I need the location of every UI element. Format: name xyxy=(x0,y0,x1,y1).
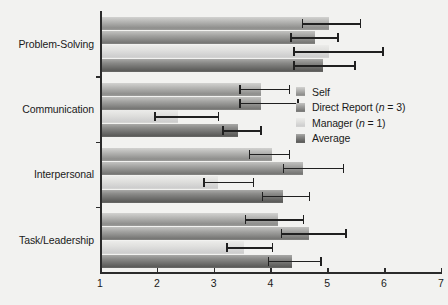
error-bar xyxy=(268,257,322,266)
error-bar-cap-low xyxy=(245,215,247,224)
y-axis-tick xyxy=(96,76,100,78)
x-axis-tick-label: 2 xyxy=(149,277,165,289)
error-bar-cap-low xyxy=(293,47,295,56)
legend-swatch-icon xyxy=(296,118,305,127)
error-bar-cap-low xyxy=(302,19,304,28)
error-bar-line xyxy=(302,23,362,25)
legend-item[interactable]: Manager (n = 1) xyxy=(296,115,405,131)
error-bar-line xyxy=(245,219,305,221)
legend-item-label: Manager (n = 1) xyxy=(312,117,386,129)
error-bar xyxy=(283,164,344,173)
bar-average xyxy=(102,190,284,203)
error-bar-cap-low xyxy=(239,85,241,94)
bar-manager-n xyxy=(102,241,244,254)
bar-self xyxy=(102,17,329,30)
error-bar-cap-low xyxy=(281,229,283,238)
error-bar-line xyxy=(293,51,384,53)
x-axis-tick-label: 6 xyxy=(376,277,392,289)
error-bar-line xyxy=(222,130,262,132)
error-bar xyxy=(281,229,347,238)
error-bar-cap-high xyxy=(382,47,384,56)
error-bar xyxy=(154,112,219,121)
error-bar xyxy=(262,192,310,201)
error-bar-cap-low xyxy=(290,33,292,42)
error-bar-line xyxy=(249,154,290,156)
error-bar xyxy=(226,243,273,252)
error-bar xyxy=(293,61,355,70)
error-bar xyxy=(203,178,254,187)
legend-item-label: Direct Report (n = 3) xyxy=(312,101,405,113)
error-bar-line xyxy=(239,89,290,91)
error-bar-cap-high xyxy=(303,215,305,224)
error-bar-line xyxy=(293,65,355,67)
error-bar-line xyxy=(226,247,273,249)
error-bar-cap-high xyxy=(253,178,255,187)
y-axis-tick xyxy=(96,207,100,209)
y-axis-category-label: Problem-Solving xyxy=(18,38,94,50)
error-bar-cap-low xyxy=(203,178,205,187)
error-bar-line xyxy=(262,196,310,198)
error-bar-cap-high xyxy=(337,33,339,42)
bar-average xyxy=(102,59,324,72)
bar-direct-report-n xyxy=(102,31,315,44)
error-bar-cap-high xyxy=(289,150,291,159)
error-bar-cap-low xyxy=(268,257,270,266)
error-bar-cap-low xyxy=(154,112,156,121)
chart-legend: SelfDirect Report (n = 3)Manager (n = 1)… xyxy=(296,84,405,146)
error-bar-cap-low xyxy=(283,164,285,173)
y-axis-tick xyxy=(96,142,100,144)
bar-self xyxy=(102,148,272,161)
x-axis-tick xyxy=(384,268,386,272)
error-bar-cap-high xyxy=(289,85,291,94)
error-bar xyxy=(239,85,290,94)
legend-item-label: Average xyxy=(312,132,350,144)
legend-item[interactable]: Direct Report (n = 3) xyxy=(296,100,405,116)
bar-average xyxy=(102,255,292,268)
x-axis-tick xyxy=(327,268,329,272)
error-bar-cap-low xyxy=(239,99,241,108)
x-axis-tick xyxy=(270,268,272,272)
error-bar-cap-low xyxy=(262,192,264,201)
y-axis-category-label: Interpersonal xyxy=(34,168,94,180)
x-axis-tick-label: 5 xyxy=(319,277,335,289)
error-bar-cap-high xyxy=(218,112,220,121)
error-bar xyxy=(302,19,362,28)
error-bar-cap-high xyxy=(320,257,322,266)
legend-swatch-icon xyxy=(296,103,305,112)
error-bar-cap-high xyxy=(272,243,274,252)
y-axis-category-label: Communication xyxy=(22,103,94,115)
legend-swatch-icon xyxy=(296,134,305,143)
error-bar-cap-high xyxy=(260,126,262,135)
legend-swatch-icon xyxy=(296,87,305,96)
error-bar-cap-low xyxy=(226,243,228,252)
error-bar-cap-low xyxy=(249,150,251,159)
error-bar-line xyxy=(290,37,338,39)
y-axis-category-label: Task/Leadership xyxy=(19,234,94,246)
error-bar-cap-high xyxy=(345,229,347,238)
bar-average xyxy=(102,124,238,137)
error-bar-line xyxy=(154,116,219,118)
error-bar-line xyxy=(283,168,344,170)
error-bar xyxy=(239,99,299,108)
error-bar xyxy=(290,33,338,42)
error-bar-line xyxy=(268,261,322,263)
x-axis-tick xyxy=(157,268,159,272)
x-axis-tick-label: 4 xyxy=(262,277,278,289)
legend-item[interactable]: Average xyxy=(296,131,405,147)
x-axis-tick-label: 1 xyxy=(92,277,108,289)
error-bar xyxy=(222,126,262,135)
error-bar-cap-high xyxy=(360,19,362,28)
x-axis-tick-label: 3 xyxy=(206,277,222,289)
x-axis-tick-label: 7 xyxy=(433,277,448,289)
legend-item[interactable]: Self xyxy=(296,84,405,100)
error-bar-cap-low xyxy=(293,61,295,70)
bar-direct-report-n xyxy=(102,162,304,175)
error-bar-cap-high xyxy=(309,192,311,201)
bar-direct-report-n xyxy=(102,227,309,240)
legend-item-label: Self xyxy=(312,86,330,98)
x-axis-line xyxy=(100,272,442,274)
bar-manager-n xyxy=(102,176,218,189)
error-bar xyxy=(249,150,290,159)
error-bar-line xyxy=(239,103,299,105)
